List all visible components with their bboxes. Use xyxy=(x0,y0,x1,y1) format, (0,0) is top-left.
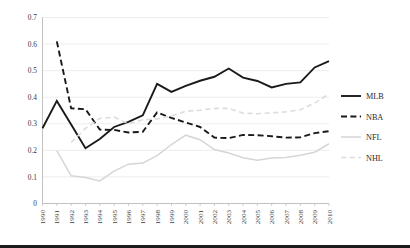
x-axis-tick-label: 2001 xyxy=(197,210,205,225)
series-line-nhl xyxy=(71,94,329,142)
legend-label-mlb: MLB xyxy=(366,92,384,101)
legend-label-nhl: NHL xyxy=(366,154,383,163)
x-axis-tick-label: 1994 xyxy=(96,210,104,225)
x-axis-tick-label: 1992 xyxy=(68,210,76,225)
y-axis-tick-label: 0.1 xyxy=(28,173,38,182)
y-axis-tick-label: 0.2 xyxy=(28,146,38,155)
x-axis-tick-label: 2007 xyxy=(283,210,291,225)
x-axis-tick-label: 1991 xyxy=(53,210,61,225)
chart-svg: 0.70.60.50.40.30.20.10199019911992199319… xyxy=(0,0,410,248)
x-axis-tick-label: 2000 xyxy=(182,210,190,225)
x-axis-tick-label: 1997 xyxy=(139,210,147,225)
y-axis-tick-label: 0.6 xyxy=(28,40,38,49)
x-axis-tick-label: 2004 xyxy=(240,210,248,225)
y-axis-tick-label: 0.7 xyxy=(28,13,38,22)
x-axis-tick-label: 2009 xyxy=(311,210,319,225)
x-axis-tick-label: 1999 xyxy=(168,210,176,225)
y-axis-tick-label: 0.3 xyxy=(28,119,38,128)
y-axis-tick-label: 0.4 xyxy=(28,93,38,102)
legend-label-nba: NBA xyxy=(366,113,383,122)
x-axis-tick-label: 2008 xyxy=(297,210,305,225)
x-axis-tick-label: 1993 xyxy=(82,210,90,225)
x-axis-tick-label: 1990 xyxy=(39,210,47,225)
x-axis-tick-label: 2002 xyxy=(211,210,219,225)
x-axis-tick-label: 2003 xyxy=(225,210,233,225)
legend-label-nfl: NFL xyxy=(366,133,381,142)
y-axis-tick-label: 0.5 xyxy=(28,66,38,75)
series-line-nfl xyxy=(57,135,329,181)
x-axis-tick-label: 1996 xyxy=(125,210,133,225)
y-axis-tick-label: 0 xyxy=(33,199,37,208)
x-axis-tick-label: 2010 xyxy=(326,210,334,225)
x-axis-tick-label: 1998 xyxy=(154,210,162,225)
x-axis-tick-label: 2005 xyxy=(254,210,262,225)
line-chart-figure: 0.70.60.50.40.30.20.10199019911992199319… xyxy=(0,0,410,248)
x-axis-tick-label: 1995 xyxy=(111,210,119,225)
x-axis-tick-label: 2006 xyxy=(268,210,276,225)
